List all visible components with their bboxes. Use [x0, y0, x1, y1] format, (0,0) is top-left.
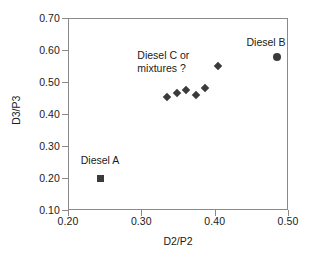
y-tick-label: 0.60	[20, 45, 60, 56]
scatter-chart-figure: 0.100.200.300.400.500.600.70 0.200.300.4…	[0, 0, 312, 261]
y-tick-mark	[62, 146, 68, 147]
y-tick-label: 0.20	[20, 173, 60, 184]
y-tick-mark	[62, 50, 68, 51]
x-axis-label: D2/P2	[68, 236, 288, 247]
x-tick-label: 0.40	[195, 216, 235, 227]
x-tick-label: 0.20	[48, 216, 88, 227]
chart-annotation: Diesel C or mixtures ?	[137, 49, 189, 74]
y-tick-label: 0.10	[20, 205, 60, 216]
y-tick-label: 0.40	[20, 109, 60, 120]
y-axis-label: D3/P3	[11, 70, 22, 150]
y-tick-mark	[62, 114, 68, 115]
data-point-marker	[97, 175, 104, 182]
chart-annotation: Diesel B	[247, 36, 286, 49]
y-tick-label: 0.30	[20, 141, 60, 152]
x-tick-label: 0.50	[268, 216, 308, 227]
y-tick-mark	[62, 178, 68, 179]
y-tick-label: 0.70	[20, 13, 60, 24]
y-tick-mark	[62, 82, 68, 83]
chart-annotation: Diesel A	[81, 154, 120, 167]
x-tick-label: 0.30	[121, 216, 161, 227]
y-tick-mark	[62, 18, 68, 19]
y-tick-label: 0.50	[20, 77, 60, 88]
